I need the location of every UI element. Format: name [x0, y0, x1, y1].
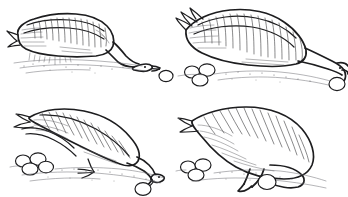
nest-clutch	[16, 153, 54, 175]
stray-egg	[329, 77, 345, 90]
plumage-hatching	[198, 108, 309, 171]
panel-tucking-egg-under-breast	[174, 99, 348, 197]
bird-foot	[78, 159, 94, 178]
panel-rolling-egg-back	[0, 99, 174, 197]
panel-4-drawing	[174, 99, 348, 197]
nest-clutch	[185, 64, 216, 86]
panel-3-drawing	[0, 99, 174, 197]
bird-eye	[144, 66, 146, 68]
bird-eye	[339, 67, 341, 69]
stray-egg	[159, 70, 173, 81]
panel-1-drawing	[0, 0, 174, 98]
panel-sitting-on-nest	[0, 0, 174, 98]
rolled-egg	[135, 183, 151, 196]
retrieved-egg	[258, 175, 276, 190]
figure-illustration	[0, 0, 348, 197]
panel-2-drawing	[174, 0, 348, 98]
bird-body	[7, 14, 114, 57]
panel-reaching-beyond-egg	[174, 0, 348, 98]
